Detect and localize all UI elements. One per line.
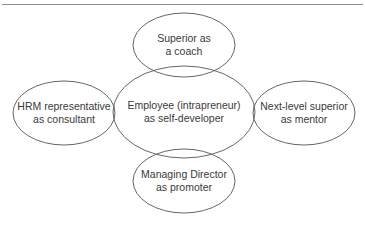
right-node-line2: as mentor [260,113,348,126]
bottom-node-line1: Managing Director [141,168,227,181]
right-node-line1: Next-level superior [260,100,348,113]
top-node-line1: Superior as [157,32,211,45]
top-node-line2: a coach [157,45,211,58]
bottom-node-label: Managing Director as promoter [141,168,227,194]
left-node-line1: HRM representative [17,100,110,113]
top-node-label: Superior as a coach [157,32,211,58]
center-node-label: Employee (intrapreneur) as self-develope… [127,99,240,125]
right-node-label: Next-level superior as mentor [260,100,348,126]
center-node-line1: Employee (intrapreneur) [127,99,240,112]
center-node-line2: as self-developer [127,112,240,125]
left-node-line2: as consultant [17,113,110,126]
left-node-label: HRM representative as consultant [17,100,110,126]
bottom-node-line2: as promoter [141,181,227,194]
